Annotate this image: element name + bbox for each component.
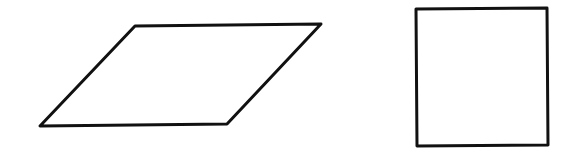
shapes-diagram [0, 0, 572, 148]
parallelogram-shape [40, 24, 321, 126]
square-shape [416, 8, 548, 146]
